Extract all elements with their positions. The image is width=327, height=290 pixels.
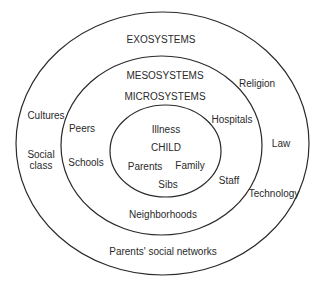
parents-label: Parents [128,161,162,172]
technology-label: Technology [249,188,300,199]
sibs-label: Sibs [158,179,177,190]
family-label: Family [175,160,204,171]
social-class-line-1: Social [27,149,54,160]
religion-label: Religion [239,78,275,89]
parents-social-networks-label: Parents' social networks [109,246,217,257]
schools-label: Schools [68,157,104,168]
social-class-label: Social class [27,149,54,171]
mesosystems-label: MESOSYSTEMS [126,70,203,81]
neighborhoods-label: Neighborhoods [129,209,197,220]
social-class-line-2: class [27,160,54,171]
staff-label: Staff [219,175,239,186]
child-label: CHILD [151,142,181,153]
hospitals-label: Hospitals [211,114,252,125]
peers-label: Peers [69,123,95,134]
exosystems-label: EXOSYSTEMS [127,34,196,45]
cultures-label: Cultures [27,110,64,121]
microsystems-label: MICROSYSTEMS [124,91,205,102]
illness-label: Illness [152,124,180,135]
law-label: Law [272,138,290,149]
